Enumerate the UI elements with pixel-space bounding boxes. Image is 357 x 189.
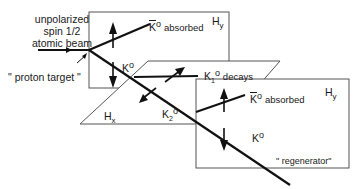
k1-branch — [134, 76, 198, 77]
k1-decays-label: K1o decays — [204, 70, 253, 84]
kbar-absorbed-label-2: Ko absorbed — [250, 93, 305, 106]
k0-label-2: Ko — [252, 132, 264, 145]
plane-label-hy-lower: Hy — [325, 86, 337, 100]
beam-label-line2: spin 1/2 — [22, 25, 102, 37]
spin-arrowhead-down-1 — [109, 76, 117, 88]
spin-arrowhead-up-1 — [109, 22, 117, 34]
k2-label: K2o — [162, 108, 178, 122]
beam-label-line3: atomic beam — [22, 37, 102, 49]
k0-label-1: Ko — [122, 62, 134, 75]
regenerator-label: " regenerator" — [276, 155, 331, 167]
beam-label-line1: unpolarized — [22, 13, 102, 25]
plane-label-hy-upper: Hy — [212, 15, 224, 29]
plane-label-hx: Hx — [104, 110, 116, 124]
target-label: " proton target " — [8, 71, 81, 83]
kbar-absorbed-label-1: Ko absorbed — [149, 21, 204, 34]
